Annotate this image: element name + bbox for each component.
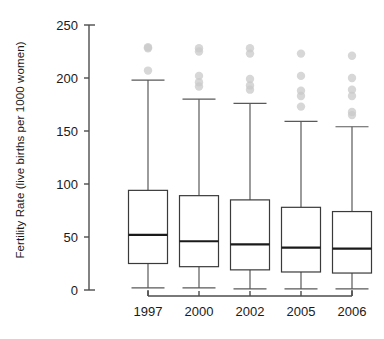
outlier-point [297,92,305,100]
fertility-rate-boxplot-figure: Fertility Rate (live births per 1000 wom… [0,0,384,339]
outlier-point [144,44,152,52]
box-iqr-rect [231,200,270,270]
box-iqr-rect [180,196,219,267]
outlier-point [195,82,203,90]
outlier-point [246,85,254,93]
outlier-point [297,72,305,80]
box-iqr-rect [282,207,321,272]
x-tick-label: 2002 [236,304,265,319]
boxplot-canvas [0,0,384,339]
outlier-point [348,111,356,119]
outlier-point [348,92,356,100]
outlier-point [297,49,305,57]
x-tick-label: 1997 [134,304,163,319]
outlier-point [144,66,152,74]
outlier-point [195,47,203,55]
outlier-point [297,102,305,110]
x-tick-label: 2005 [287,304,316,319]
box-iqr-rect [333,212,372,273]
x-tick-label: 2006 [338,304,367,319]
outlier-point [348,74,356,82]
x-tick-label: 2000 [185,304,214,319]
outlier-point [246,49,254,57]
outlier-point [348,52,356,60]
box-iqr-rect [129,190,168,263]
